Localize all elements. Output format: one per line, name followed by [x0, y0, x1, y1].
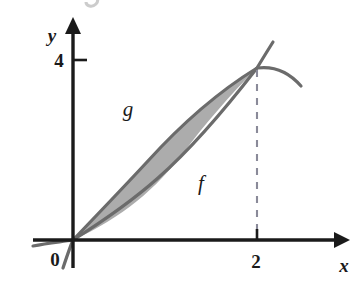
- math-figure: y x 4 2 0 g f: [0, 0, 362, 286]
- x-tick-label-2: 2: [251, 251, 261, 272]
- y-tick-label-4: 4: [54, 50, 64, 71]
- x-axis-label: x: [338, 255, 349, 276]
- origin-label: 0: [50, 249, 60, 270]
- y-axis-label: y: [46, 25, 57, 46]
- curve-label-g: g: [123, 97, 134, 121]
